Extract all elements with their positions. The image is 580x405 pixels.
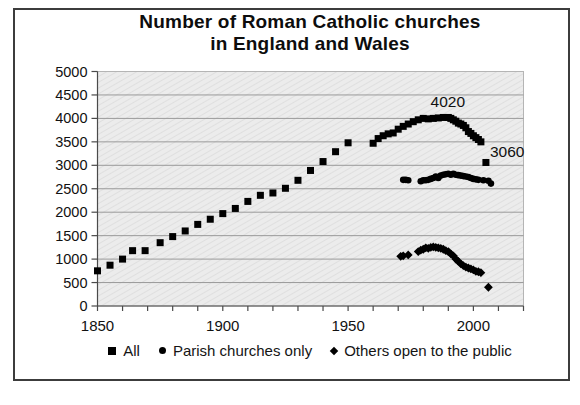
- diamond-marker-icon: [330, 346, 338, 354]
- svg-text:1900: 1900: [206, 317, 239, 334]
- square-marker-icon: [108, 347, 116, 355]
- svg-text:4000: 4000: [55, 110, 87, 126]
- svg-text:3000: 3000: [55, 157, 87, 173]
- svg-text:2500: 2500: [55, 181, 87, 197]
- svg-text:500: 500: [63, 275, 87, 291]
- chart-title: Number of Roman Catholic churches in Eng…: [97, 11, 523, 55]
- legend-item-all: All: [108, 342, 140, 359]
- circle-marker-icon: [159, 347, 166, 354]
- svg-text:5000: 5000: [55, 64, 87, 80]
- legend: All Parish churches only Others open to …: [60, 342, 560, 359]
- legend-item-parish: Parish churches only: [159, 342, 312, 359]
- svg-text:1850: 1850: [81, 317, 114, 334]
- legend-label-all: All: [123, 342, 140, 359]
- svg-text:3500: 3500: [55, 134, 87, 150]
- svg-text:4500: 4500: [55, 87, 87, 103]
- svg-text:1500: 1500: [55, 228, 87, 244]
- chart-title-line1: Number of Roman Catholic churches: [97, 11, 523, 33]
- svg-text:1950: 1950: [331, 317, 364, 334]
- svg-text:2000: 2000: [457, 317, 490, 334]
- legend-item-others: Others open to the public: [331, 342, 512, 359]
- annotation-3060: 3060: [490, 143, 525, 160]
- svg-text:2000: 2000: [55, 204, 87, 220]
- legend-label-parish: Parish churches only: [173, 342, 312, 359]
- chart-title-line2: in England and Wales: [97, 33, 523, 55]
- legend-label-others: Others open to the public: [344, 342, 512, 359]
- x-axis-labels: 1850190019502000: [81, 317, 490, 334]
- y-axis-labels: 0500100015002000250030003500400045005000: [55, 64, 87, 315]
- chart-figure: Number of Roman Catholic churches in Eng…: [0, 0, 580, 405]
- annotation-4020: 4020: [431, 93, 466, 110]
- svg-text:1000: 1000: [55, 251, 87, 267]
- svg-text:0: 0: [79, 298, 87, 314]
